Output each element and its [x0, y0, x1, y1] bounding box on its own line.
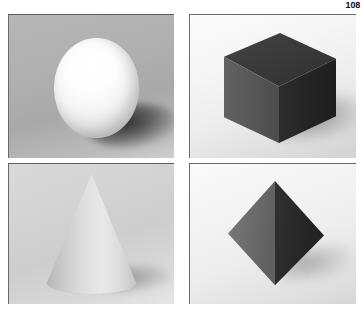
plate-grid — [0, 11, 364, 314]
plate-octahedron[interactable] — [181, 161, 364, 314]
plate-cube[interactable] — [181, 11, 364, 161]
plate-cone-image — [8, 163, 174, 304]
page-number: 108 — [346, 0, 360, 11]
plate-sphere[interactable] — [0, 11, 181, 161]
plate-cone[interactable] — [0, 161, 181, 314]
sphere-object — [54, 38, 140, 138]
plate-cube-image — [189, 14, 356, 158]
cube-object — [190, 15, 356, 158]
plate-sphere-image — [8, 14, 174, 158]
octahedron-object — [190, 164, 356, 304]
octahedron-left-face — [228, 181, 275, 285]
cone-object — [9, 164, 174, 304]
plate-octahedron-image — [189, 163, 356, 304]
octahedron-right-face — [275, 181, 324, 285]
cone-body — [47, 174, 136, 294]
page-root: 108 — [0, 0, 364, 314]
